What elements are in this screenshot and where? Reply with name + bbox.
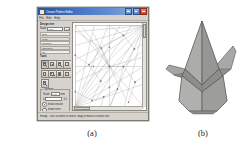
tree-item-head[interactable]: head xyxy=(40,37,70,41)
scale-label: Scale xyxy=(43,92,50,96)
figure-container: Crease Pattern Editor File Edit Help Des… xyxy=(0,0,247,151)
vertical-scrollbar-thumb[interactable] xyxy=(143,24,146,38)
menu-file[interactable]: File xyxy=(39,15,44,19)
origami-crane-photo xyxy=(163,13,241,116)
menu-bar: File Edit Help xyxy=(38,15,148,21)
optimize-group-title: Optimize xyxy=(43,88,54,91)
scale-input[interactable]: 0.43 xyxy=(51,92,60,96)
control-sidebar: Design tree Node root 1.00 body head lef… xyxy=(39,22,71,111)
menu-help[interactable]: Help xyxy=(54,15,60,19)
maximize-button[interactable] xyxy=(133,8,140,15)
range-min-label: 0 xyxy=(43,97,44,101)
crease-pattern-svg xyxy=(73,23,146,110)
window-titlebar[interactable]: Crease Pattern Editor xyxy=(38,8,148,15)
node-field-label: Node xyxy=(40,27,46,31)
node-field-input[interactable]: root xyxy=(47,27,63,31)
pan-tool-button[interactable] xyxy=(63,70,71,79)
scale-unit-label: mm xyxy=(61,92,65,96)
tree-item-right-wing[interactable]: right wing xyxy=(40,46,70,50)
crease-pattern-canvas[interactable] xyxy=(72,22,147,111)
tools-heading: Tools xyxy=(40,55,71,59)
radio-show-creases-label: Show creases xyxy=(48,103,64,107)
radio-icon xyxy=(42,108,47,111)
tree-item-left-wing[interactable]: left wing xyxy=(40,41,70,45)
range-row: 0 1.0 xyxy=(43,97,67,101)
horizontal-scrollbar-thumb[interactable] xyxy=(74,107,90,110)
app-icon xyxy=(39,9,45,15)
minimize-button[interactable] xyxy=(125,8,132,15)
radio-show-creases[interactable]: Show creases xyxy=(42,102,68,107)
caption-b: (b) xyxy=(175,128,231,138)
horizontal-scrollbar[interactable] xyxy=(73,106,143,110)
caption-a: (a) xyxy=(47,128,137,138)
radio-show-rivers-label: Show rivers xyxy=(48,108,61,111)
scale-field-row: Scale 0.43 mm xyxy=(43,92,67,96)
radio-icon xyxy=(42,102,47,107)
length-field-input[interactable]: 1.00 xyxy=(64,27,70,31)
status-text: Ready - click a vertex to select, drag t… xyxy=(40,114,110,118)
status-bar: Ready - click a vertex to select, drag t… xyxy=(38,112,148,120)
tool-button-grid xyxy=(41,60,72,88)
range-slider[interactable] xyxy=(45,97,62,101)
crane-illustration xyxy=(163,13,241,116)
optimize-options-group: Optimize Scale 0.43 mm 0 1.0 Show crease… xyxy=(40,89,70,111)
fold-tool-button[interactable] xyxy=(41,79,50,88)
node-field-row: Node root 1.00 xyxy=(40,27,70,31)
range-max-label: 1.0 xyxy=(63,97,67,101)
application-window: Crease Pattern Editor File Edit Help Des… xyxy=(37,7,149,121)
delete-tool-button[interactable] xyxy=(63,60,71,69)
close-button[interactable] xyxy=(140,8,147,15)
radio-show-rivers[interactable]: Show rivers xyxy=(42,108,68,111)
tree-item-body[interactable]: body xyxy=(40,32,70,36)
menu-edit[interactable]: Edit xyxy=(46,15,51,19)
vertical-scrollbar[interactable] xyxy=(142,23,146,107)
window-title: Crease Pattern Editor xyxy=(46,9,125,13)
